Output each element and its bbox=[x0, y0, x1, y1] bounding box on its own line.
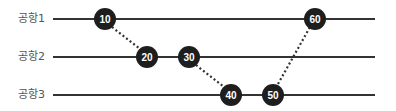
node-50: 50 bbox=[262, 84, 284, 106]
connector-50-60 bbox=[278, 27, 310, 84]
node-20: 20 bbox=[136, 46, 158, 68]
connector-30-40 bbox=[196, 65, 224, 87]
node-40: 40 bbox=[220, 84, 242, 106]
node-60: 60 bbox=[304, 8, 326, 30]
node-10: 10 bbox=[94, 8, 116, 30]
node-30: 30 bbox=[178, 46, 200, 68]
connector-10-20 bbox=[112, 27, 140, 49]
